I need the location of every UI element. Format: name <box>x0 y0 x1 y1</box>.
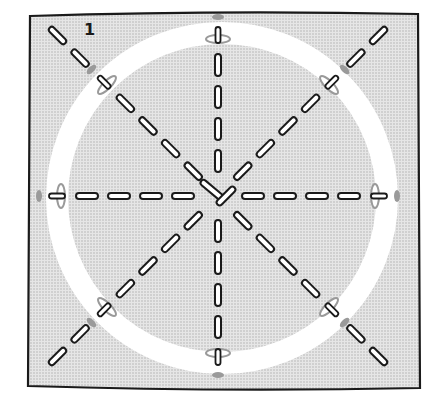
ring-stub <box>49 194 65 199</box>
ring-tick <box>212 372 224 378</box>
stitch-diagram: 1 <box>0 0 440 403</box>
ring-tick <box>36 190 42 202</box>
stitch-dash <box>338 193 360 199</box>
stitch-dash <box>242 193 264 199</box>
stitch-dash <box>306 193 328 199</box>
stitch-dash <box>215 54 221 76</box>
ring-tick <box>394 190 400 202</box>
ring-stub <box>371 194 387 199</box>
step-number-label: 1 <box>84 20 95 39</box>
stitch-dash <box>215 316 221 338</box>
stitch-dash <box>76 193 98 199</box>
diagram-canvas <box>0 0 440 403</box>
stitch-dash <box>108 193 130 199</box>
stitch-dash <box>140 193 162 199</box>
stitch-dash <box>215 284 221 306</box>
ring-stub <box>216 27 221 43</box>
ring-tick <box>212 14 224 20</box>
ring-stub <box>216 349 221 365</box>
stitch-dash <box>215 86 221 108</box>
stitch-dash <box>215 252 221 274</box>
stitch-dash <box>215 150 221 172</box>
stitch-dash <box>172 193 194 199</box>
stitch-dash <box>215 220 221 242</box>
stitch-dash <box>274 193 296 199</box>
stitch-dash <box>215 118 221 140</box>
